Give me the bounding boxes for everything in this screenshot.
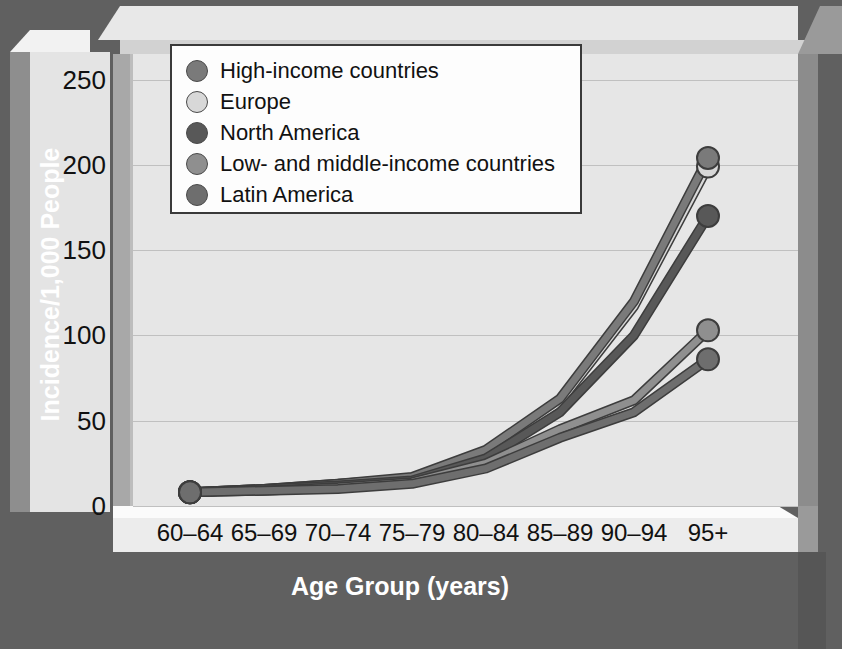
x-axis-tick-label: 90–94 [601,519,668,547]
bottom-shadow [798,552,826,649]
legend-item-label: Europe [220,89,291,115]
series-marker [697,147,719,169]
x-axis-tick-label: 80–84 [453,519,520,547]
series-marker [179,481,201,503]
x-axis-tick-label: 60–64 [157,519,224,547]
legend-item-label: High-income countries [220,58,439,84]
legend-marker-icon [186,184,208,206]
legend-marker-icon [186,60,208,82]
legend-marker-icon [186,153,208,175]
y-axis-title: Incidence/1,000 People [36,85,65,485]
gridline [133,506,798,507]
axis-floor-bevel [113,506,798,518]
x-axis-tick-labels: 60–6465–6970–7475–7980–8485–8990–9495+ [133,519,798,551]
y-axis-tick-label: 0 [32,491,106,522]
series-line-outline [190,359,708,492]
legend-item-label: North America [220,120,359,146]
legend-item: North America [186,118,566,148]
chart-legend: High-income countriesEuropeNorth America… [170,44,582,214]
frame-top-right [798,6,842,54]
x-axis-tick-label: 95+ [688,519,729,547]
legend-item-label: Latin America [220,182,353,208]
legend-marker-icon [186,122,208,144]
legend-item: Europe [186,87,566,117]
legend-item: High-income countries [186,56,566,86]
axis-floor-right [798,506,818,552]
series-line [190,216,708,492]
series-line-outline [190,167,708,493]
x-axis-tick-label: 85–89 [527,519,594,547]
series-marker [697,205,719,227]
series-marker [697,348,719,370]
series-marker [697,319,719,341]
series-line [190,167,708,493]
x-axis-tick-label: 65–69 [231,519,298,547]
series-line-outline [190,216,708,492]
legend-item: Low- and middle-income countries [186,149,566,179]
legend-item: Latin America [186,180,566,210]
plot-wall-right-shade [798,54,818,506]
plot-wall-left-shade [113,54,133,506]
frame-top-bevel [98,6,798,40]
legend-marker-icon [186,91,208,113]
x-axis-tick-label: 70–74 [305,519,372,547]
x-axis-title: Age Group (years) [0,572,800,601]
x-axis-tick-label: 75–79 [379,519,446,547]
legend-item-label: Low- and middle-income countries [220,151,555,177]
